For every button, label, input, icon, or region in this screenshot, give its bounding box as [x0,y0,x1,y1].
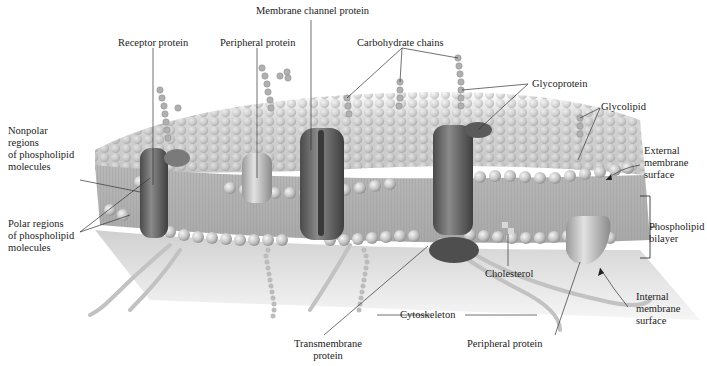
label-line: regions [8,137,74,149]
label-line: surface [636,315,680,327]
label-line: External [644,145,688,157]
label-polar-regions: Polar regions of phospholipid molecules [8,218,74,254]
label-line: Nonpolar [8,125,74,137]
label-transmembrane-protein: Transmembrane protein [288,338,368,362]
label-line: molecules [8,242,74,254]
label-external-membrane-surface: External membrane surface [644,145,688,181]
label-receptor-protein: Receptor protein [118,37,188,49]
label-line: Internal [636,291,680,303]
label-carbohydrate-chains: Carbohydrate chains [357,37,444,49]
label-line: surface [644,169,688,181]
label-glycoprotein: Glycoprotein [532,78,587,90]
label-phospholipid-bilayer: Phospholipid bilayer [649,221,704,245]
label-line: of phospholipid [8,230,74,242]
label-nonpolar-regions: Nonpolar regions of phospholipid molecul… [8,125,74,173]
cell-membrane-illustration [0,0,707,366]
label-line: membrane [636,303,680,315]
label-line: of phospholipid [8,149,74,161]
receptor-protein [140,148,168,238]
label-line: Phospholipid [649,221,704,233]
label-membrane-channel-protein: Membrane channel protein [256,5,369,17]
label-line: Polar regions [8,218,74,230]
label-glycolipid: Glycolipid [601,101,646,113]
label-line: bilayer [649,233,704,245]
label-line: molecules [8,161,74,173]
label-cholesterol: Cholesterol [485,268,533,280]
label-cytoskeleton: Cytoskeleton [400,309,455,321]
label-peripheral-protein-top: Peripheral protein [220,37,296,49]
label-line: protein [288,350,368,362]
label-line: membrane [644,157,688,169]
transmembrane-protein [433,125,473,235]
label-peripheral-protein-bottom: Peripheral protein [467,338,543,350]
peripheral-protein-lower-left [429,237,479,263]
label-internal-membrane-surface: Internal membrane surface [636,291,680,327]
label-line: Transmembrane [288,338,368,350]
